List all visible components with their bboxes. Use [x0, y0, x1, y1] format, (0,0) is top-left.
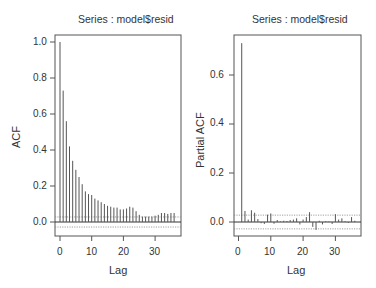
- plot-frame: [234, 35, 361, 236]
- plot-frame: [55, 35, 181, 236]
- pacf-plot-area: [229, 35, 361, 241]
- acf-pacf-plots: [0, 0, 376, 288]
- acf-plot-area: [50, 35, 181, 241]
